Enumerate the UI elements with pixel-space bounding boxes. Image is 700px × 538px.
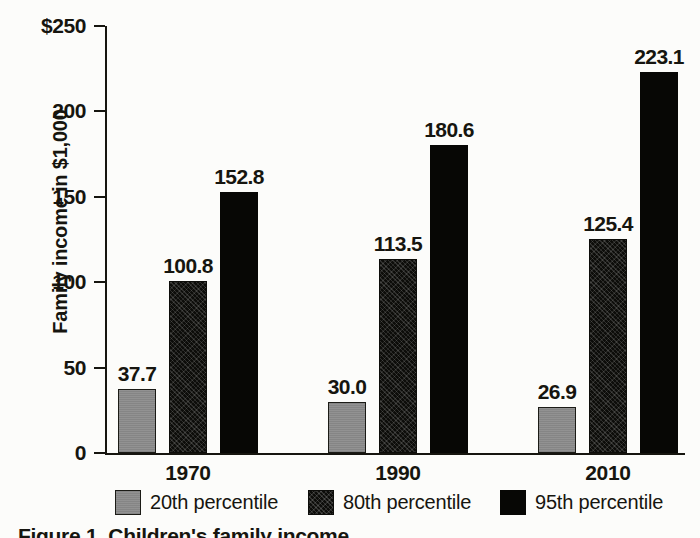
bar-value-label: 113.5: [363, 233, 433, 254]
bar: [328, 402, 366, 453]
legend-label: 95th percentile: [535, 491, 663, 514]
legend-label: 80th percentile: [343, 491, 471, 514]
legend-swatch-icon: [500, 490, 526, 515]
bar: [589, 239, 627, 453]
bar-value-label: 152.8: [204, 166, 274, 187]
bar: [640, 72, 678, 453]
legend-item-p80[interactable]: 80th percentile: [308, 490, 471, 515]
legend-swatch-icon: [308, 490, 334, 515]
legend-item-p95[interactable]: 95th percentile: [500, 490, 663, 515]
bar: [538, 407, 576, 453]
bar-value-label: 125.4: [573, 213, 643, 234]
x-axis-group-label-1990: 1990: [338, 461, 458, 485]
x-axis-group-label-2010: 2010: [548, 461, 668, 485]
bar-value-label: 26.9: [522, 381, 592, 402]
bar: [220, 192, 258, 453]
bar-value-label: 30.0: [312, 376, 382, 397]
bar-value-label: 100.8: [153, 255, 223, 276]
chart-legend: 20th percentile80th percentile95th perce…: [0, 490, 700, 518]
chart-figure: Family income in $1,000 $250200150100500…: [0, 0, 700, 538]
bar: [169, 281, 207, 453]
plot-area: Family income in $1,000 $250200150100500…: [0, 0, 700, 538]
bar: [430, 145, 468, 453]
bar: [118, 389, 156, 453]
bars-layer: 37.7100.8152.830.0113.5180.626.9125.4223…: [0, 0, 700, 455]
bar-value-label: 223.1: [624, 46, 694, 67]
figure-caption: Figure 1. Children's family income: [18, 524, 349, 538]
x-axis-group-label-1970: 1970: [128, 461, 248, 485]
bar-value-label: 37.7: [102, 363, 172, 384]
legend-label: 20th percentile: [150, 491, 278, 514]
bar-value-label: 180.6: [414, 119, 484, 140]
legend-swatch-icon: [115, 490, 141, 515]
legend-item-p20[interactable]: 20th percentile: [115, 490, 278, 515]
bar: [379, 259, 417, 453]
